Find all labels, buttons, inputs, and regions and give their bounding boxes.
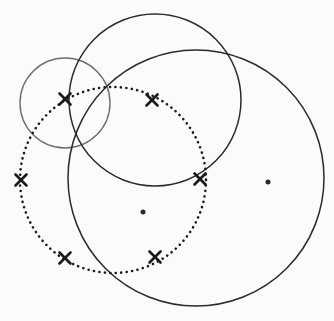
dot-marker — [266, 180, 271, 185]
dot-marker — [141, 210, 146, 215]
figure-container — [0, 0, 334, 321]
circle-diagram-canvas — [0, 0, 334, 321]
figure-background — [0, 0, 334, 321]
